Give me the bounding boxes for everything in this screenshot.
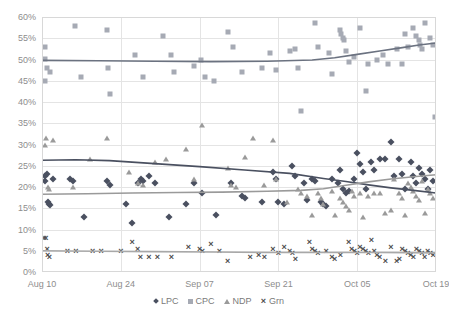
y-axis-tick-label: 50% [18, 55, 36, 65]
plot-border [42, 17, 436, 272]
y-axis-tick-label: 35% [18, 118, 36, 128]
y-axis-tick-label: 10% [18, 225, 36, 235]
legend-item-lpc[interactable]: LPC [154, 296, 179, 306]
legend-item-ndp[interactable]: NDP [224, 296, 252, 306]
legend-label: NDP [233, 296, 252, 306]
legend-marker-square-icon [188, 299, 193, 304]
y-axis-tick-label: 40% [18, 97, 36, 107]
legend-marker-x-icon: × [261, 296, 266, 306]
x-axis-tick-label: Sep 21 [264, 279, 293, 289]
legend-marker-triangle-icon [224, 299, 230, 304]
x-axis-tick-label: Aug 10 [28, 279, 57, 289]
x-axis-tick-label: Oct 05 [344, 279, 371, 289]
y-axis-tick-label: 60% [18, 12, 36, 22]
chart-legend: LPCCPCNDP×Grn [0, 296, 438, 306]
y-axis: 0%5%10%15%20%25%30%35%40%45%50%55%60% [0, 0, 36, 320]
legend-label: Grn [269, 296, 284, 306]
x-axis-tick-label: Oct 19 [423, 279, 449, 289]
x-axis-tick-label: Aug 24 [107, 279, 136, 289]
legend-item-grn[interactable]: ×Grn [261, 296, 284, 306]
y-axis-tick-label: 20% [18, 182, 36, 192]
legend-marker-diamond-icon [153, 298, 159, 304]
y-axis-tick-label: 15% [18, 203, 36, 213]
x-axis-tick-label: Sep 07 [185, 279, 214, 289]
legend-label: LPC [161, 296, 179, 306]
y-axis-tick-label: 25% [18, 161, 36, 171]
legend-item-cpc[interactable]: CPC [188, 296, 215, 306]
y-axis-tick-label: 0% [23, 267, 36, 277]
y-axis-tick-label: 30% [18, 140, 36, 150]
y-axis-tick-label: 5% [23, 246, 36, 256]
y-axis-tick-label: 55% [18, 33, 36, 43]
y-axis-tick-label: 45% [18, 76, 36, 86]
legend-label: CPC [196, 296, 215, 306]
